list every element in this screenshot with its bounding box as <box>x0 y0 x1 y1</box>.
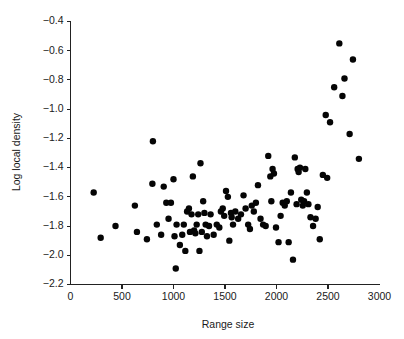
scatter-plot-figure: −0.4−0.6−0.8−1.0−1.2−1.4−1.6−1.8−2.0−2.2… <box>0 0 404 339</box>
data-point <box>304 189 310 195</box>
y-tick-label: −1.2 <box>43 131 64 143</box>
data-point <box>323 112 329 118</box>
y-tick-label: −0.4 <box>43 14 64 26</box>
data-point <box>305 201 311 207</box>
data-point <box>168 199 174 205</box>
x-tick-label: 2500 <box>316 290 340 302</box>
data-point <box>181 221 187 227</box>
data-point <box>271 170 277 176</box>
data-point <box>173 221 179 227</box>
data-point <box>197 160 203 166</box>
data-point <box>277 213 283 219</box>
data-point <box>288 189 294 195</box>
data-point <box>238 211 244 217</box>
data-point <box>182 248 188 254</box>
x-tick-label: 1000 <box>162 290 186 302</box>
data-point <box>273 224 279 230</box>
y-tick-label: −1.4 <box>43 160 64 172</box>
data-point <box>204 233 210 239</box>
x-tick-label: 3000 <box>368 290 392 302</box>
data-point <box>192 230 198 236</box>
data-point <box>201 210 207 216</box>
data-point <box>190 173 196 179</box>
x-tick-label: 1500 <box>213 290 237 302</box>
data-point <box>312 216 318 222</box>
data-point <box>216 224 222 230</box>
data-point <box>315 204 321 210</box>
data-point <box>158 232 164 238</box>
data-point <box>188 211 194 217</box>
x-tick-label: 2000 <box>265 290 289 302</box>
data-point <box>206 223 212 229</box>
data-point <box>112 223 118 229</box>
data-point <box>251 208 257 214</box>
data-point <box>292 154 298 160</box>
data-point <box>173 265 179 271</box>
data-point <box>193 221 199 227</box>
data-point <box>293 201 299 207</box>
x-axis-title: Range size <box>202 318 255 330</box>
plot-canvas: −0.4−0.6−0.8−1.0−1.2−1.4−1.6−1.8−2.0−2.2… <box>0 0 404 339</box>
data-point <box>171 233 177 239</box>
data-point <box>134 229 140 235</box>
data-point <box>284 198 290 204</box>
data-point <box>257 216 263 222</box>
data-point <box>223 188 229 194</box>
y-axis-title: Log local density <box>10 112 22 191</box>
data-point <box>327 119 333 125</box>
data-point <box>220 205 226 211</box>
data-point <box>149 180 155 186</box>
data-point <box>226 237 232 243</box>
data-point <box>341 75 347 81</box>
data-point <box>150 138 156 144</box>
data-point <box>196 248 202 254</box>
data-point <box>324 175 330 181</box>
data-point <box>253 199 259 205</box>
data-point <box>247 226 253 232</box>
data-point <box>132 202 138 208</box>
data-point <box>346 131 352 137</box>
data-point <box>290 256 296 262</box>
data-point <box>228 214 234 220</box>
y-tick-label: −2.2 <box>43 277 64 289</box>
data-point <box>195 211 201 217</box>
x-tick-label: 0 <box>68 290 74 302</box>
data-point <box>90 189 96 195</box>
data-point <box>221 213 227 219</box>
y-tick-label: −1.8 <box>43 219 64 231</box>
data-point <box>199 229 205 235</box>
data-point <box>207 211 213 217</box>
y-tick-label: −1.0 <box>43 102 64 114</box>
x-tick-label: 500 <box>113 290 131 302</box>
data-point <box>154 221 160 227</box>
data-point <box>240 192 246 198</box>
data-point <box>210 232 216 238</box>
y-tick-label: −0.6 <box>43 44 64 56</box>
data-point <box>350 56 356 62</box>
y-tick-label: −2.0 <box>43 248 64 260</box>
data-point <box>179 232 185 238</box>
y-tick-label: −1.6 <box>43 190 64 202</box>
y-tick-label: −0.8 <box>43 73 64 85</box>
data-point <box>265 153 271 159</box>
data-point <box>161 183 167 189</box>
data-point <box>275 239 281 245</box>
data-point <box>242 205 248 211</box>
data-point <box>339 93 345 99</box>
data-point <box>165 216 171 222</box>
data-point <box>356 156 362 162</box>
data-point <box>200 198 206 204</box>
data-point <box>336 40 342 46</box>
data-point <box>186 205 192 211</box>
data-point <box>97 235 103 241</box>
data-point <box>285 239 291 245</box>
data-point <box>302 166 308 172</box>
data-point <box>310 223 316 229</box>
data-point <box>255 182 261 188</box>
data-point <box>268 198 274 204</box>
data-point <box>317 236 323 242</box>
data-point <box>262 223 268 229</box>
data-point <box>232 208 238 214</box>
data-point <box>225 194 231 200</box>
data-point <box>177 242 183 248</box>
